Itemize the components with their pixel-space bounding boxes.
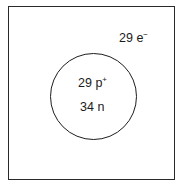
neutron-symbol: n	[97, 100, 104, 114]
neutron-label: 34 n	[80, 101, 104, 114]
proton-label: 29 p+	[78, 77, 107, 90]
neutron-count: 34	[80, 100, 94, 114]
electron-count: 29	[119, 31, 133, 45]
proton-count: 29	[78, 76, 92, 90]
nucleus-circle	[50, 53, 137, 140]
electron-label: 29 e−	[119, 32, 148, 45]
electron-charge: −	[143, 30, 148, 39]
proton-charge: +	[102, 75, 107, 84]
